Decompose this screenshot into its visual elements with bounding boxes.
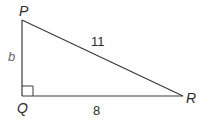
vertex-label-r: R (186, 91, 196, 105)
vertex-label-q: Q (17, 101, 28, 115)
vertex-label-p: P (19, 4, 28, 18)
right-triangle-figure: P Q R b 11 8 (0, 0, 209, 121)
triangle-drawing (0, 0, 209, 121)
side-label-pr: 11 (91, 35, 105, 48)
side-pr-hypotenuse (22, 20, 183, 96)
side-label-qr: 8 (93, 104, 100, 117)
side-label-pq: b (8, 50, 15, 63)
right-angle-marker (22, 86, 33, 96)
